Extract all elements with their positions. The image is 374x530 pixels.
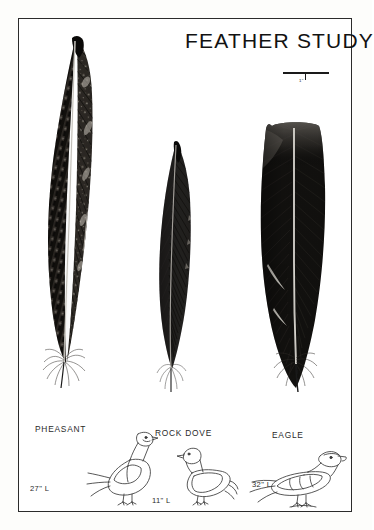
rock-dove-vane xyxy=(148,135,228,400)
eagle-feather xyxy=(252,112,358,402)
specimen-pheasant-length: 27" L xyxy=(30,484,49,493)
scale-bar: 1" xyxy=(283,72,329,86)
specimen-rock-dove-label: ROCK DOVE xyxy=(155,428,212,438)
specimen-eagle-label: EAGLE xyxy=(272,430,304,440)
rock-dove-feather xyxy=(148,135,228,400)
eagle-silhouette-icon xyxy=(246,442,350,508)
pheasant-calamus xyxy=(61,362,64,388)
pheasant-feather xyxy=(28,24,138,394)
eagle-vane xyxy=(252,112,358,402)
specimen-rock-dove-length: 11" L xyxy=(152,496,171,505)
specimen-pheasant-label: PHEASANT xyxy=(35,424,86,434)
pheasant-vane-shading xyxy=(28,24,138,394)
scale-bar-label: 1" xyxy=(299,78,303,83)
pheasant-silhouette-icon xyxy=(86,426,162,506)
page-title: FEATHER STUDY xyxy=(185,29,374,53)
rock-dove-silhouette-icon xyxy=(172,444,238,506)
scale-bar-tick xyxy=(305,74,306,80)
